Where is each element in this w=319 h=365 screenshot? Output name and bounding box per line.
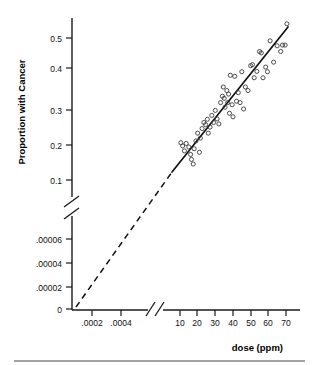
y-tick-marks-upper xyxy=(66,38,72,180)
data-point xyxy=(236,91,240,95)
regression-line xyxy=(172,27,288,172)
y-tick-label-0: 0.5 xyxy=(50,34,62,44)
data-point xyxy=(279,49,283,53)
data-point xyxy=(261,76,265,80)
y-tick-marks-lower xyxy=(66,239,72,309)
data-point xyxy=(197,150,201,154)
x-tick-label-low-0: .0002 xyxy=(81,318,103,328)
data-point xyxy=(189,157,193,161)
data-point xyxy=(200,126,204,130)
x-axis-break-icon xyxy=(146,302,164,316)
figure-container: 0.5 0.4 0.3 0.2 0.1 .00006 .00004 .00002… xyxy=(0,0,319,365)
data-point xyxy=(230,103,234,107)
x-tick-label-high-0: 10 xyxy=(175,318,185,328)
data-point xyxy=(265,70,269,74)
extrapolated-trend-line xyxy=(76,172,172,307)
data-point xyxy=(246,88,250,92)
data-point xyxy=(227,111,231,115)
data-point xyxy=(210,113,214,117)
y-axis-break-icon xyxy=(64,196,79,219)
data-point xyxy=(191,162,195,166)
data-point xyxy=(285,22,289,26)
y-tick-label-7: .00002 xyxy=(36,283,62,293)
data-point xyxy=(187,145,191,149)
data-point xyxy=(268,39,272,43)
data-point xyxy=(264,65,268,69)
data-point xyxy=(233,74,237,78)
data-point xyxy=(219,101,223,105)
x-tick-label-high-3: 40 xyxy=(228,318,238,328)
data-point xyxy=(255,69,259,73)
data-point xyxy=(215,117,219,121)
y-tick-label-8: 0 xyxy=(57,305,62,315)
data-point xyxy=(192,147,196,151)
x-tick-label-low-1: .0004 xyxy=(110,318,132,328)
data-point xyxy=(189,152,193,156)
data-point xyxy=(272,60,276,64)
data-point xyxy=(238,101,242,105)
x-tick-marks-low xyxy=(92,310,121,316)
data-point xyxy=(213,108,217,112)
data-point xyxy=(228,73,232,77)
data-point xyxy=(221,85,225,89)
y-tick-label-3: 0.2 xyxy=(50,141,62,151)
data-point xyxy=(283,43,287,47)
y-tick-label-6: .00004 xyxy=(36,259,62,269)
dose-response-scatter-chart: 0.5 0.4 0.3 0.2 0.1 .00006 .00004 .00002… xyxy=(0,0,319,365)
x-tick-label-high-1: 20 xyxy=(192,318,202,328)
data-point xyxy=(242,107,246,111)
y-tick-label-1: 0.4 xyxy=(50,64,62,74)
y-tick-label-4: 0.1 xyxy=(50,176,62,186)
x-axis-title: dose (ppm) xyxy=(232,342,283,353)
x-tick-label-high-6: 70 xyxy=(281,318,291,328)
y-axis-title: Proportion with Cancer xyxy=(16,59,27,164)
x-tick-label-high-4: 50 xyxy=(246,318,256,328)
data-point xyxy=(217,122,221,126)
data-point xyxy=(227,92,231,96)
data-point xyxy=(252,76,256,80)
data-point xyxy=(196,131,200,135)
data-point xyxy=(205,117,209,121)
data-point xyxy=(240,70,244,74)
y-tick-label-2: 0.3 xyxy=(50,106,62,116)
data-point xyxy=(182,149,186,153)
x-tick-label-high-2: 30 xyxy=(210,318,220,328)
data-point xyxy=(231,115,235,119)
x-tick-marks-high xyxy=(180,310,286,316)
data-point xyxy=(206,131,210,135)
x-tick-label-high-5: 60 xyxy=(263,318,273,328)
y-tick-label-5: .00006 xyxy=(36,235,62,245)
data-point xyxy=(275,44,279,48)
